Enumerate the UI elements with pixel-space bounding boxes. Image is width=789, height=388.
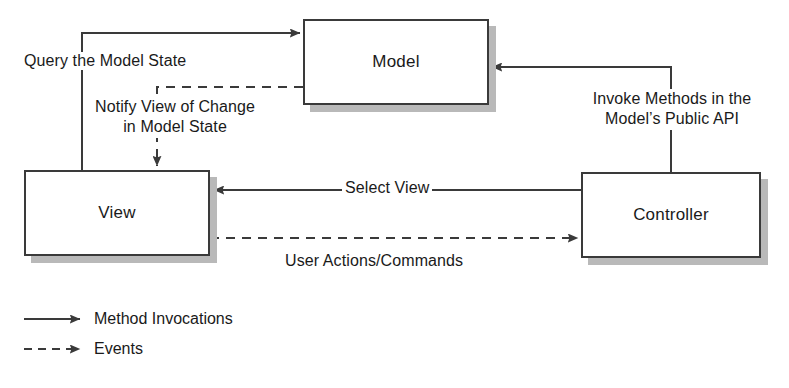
edge-label-notify-line-2: in Model State [95,117,255,137]
edge-label-notify-view-of-change: Notify View of Change in Model State [92,97,258,138]
edge-label-invoke-line-1: Invoke Methods in the [574,89,770,109]
model-box-label: Model [372,52,419,72]
view-box-label: View [98,203,135,223]
model-box[interactable]: Model [303,19,489,105]
controller-box-label: Controller [633,205,709,225]
legend-label-events: Events [94,340,143,358]
edge-label-invoke-line-2: Model’s Public API [574,109,770,129]
view-box[interactable]: View [24,170,210,256]
edge-label-query-model-state: Query the Model State [21,52,189,70]
controller-box[interactable]: Controller [581,172,761,258]
edge-label-select-view: Select View [342,179,432,197]
edge-label-notify-line-1: Notify View of Change [95,97,255,117]
edge-label-invoke-methods: Invoke Methods in the Model’s Public API [571,89,773,130]
edge-label-user-actions-commands: User Actions/Commands [282,252,466,270]
legend-label-method-invocations: Method Invocations [94,310,233,328]
diagram-canvas: Model View Controller Query the Model St… [0,0,789,388]
